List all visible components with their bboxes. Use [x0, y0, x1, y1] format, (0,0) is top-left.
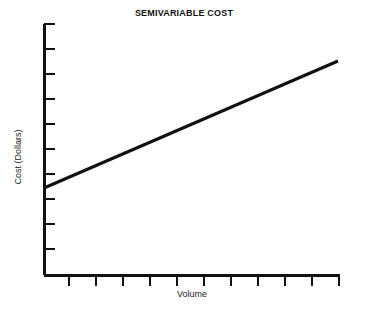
plot-area — [0, 0, 368, 312]
axes — [44, 24, 340, 275]
tick-marks — [44, 24, 339, 286]
y-axis-label: Cost (Dollars) — [13, 117, 23, 197]
data-series — [44, 61, 338, 188]
chart-figure: SEMIVARIABLE COST Cost (Dollars) Volume — [0, 0, 368, 312]
semivariable-cost-line — [44, 61, 338, 188]
x-axis-label: Volume — [44, 289, 340, 299]
